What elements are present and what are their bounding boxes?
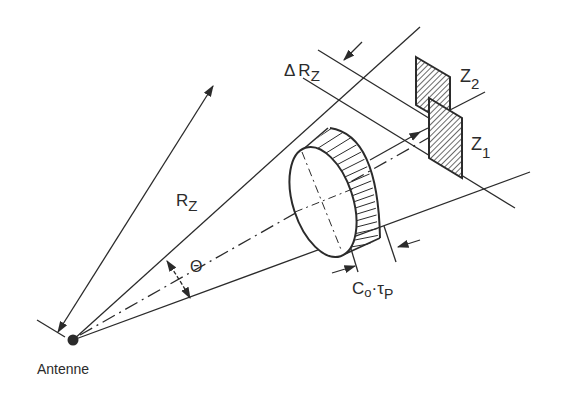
target-z1-label: Z1 bbox=[471, 134, 490, 161]
target-connector bbox=[450, 92, 485, 110]
radar-range-cell-diagram: Antenne RZ ΔRZ Θ Co·τP Z2 Z1 bbox=[0, 0, 565, 393]
pulse-length-label: Co·τP bbox=[352, 279, 393, 302]
beam-angle-arc bbox=[167, 261, 190, 298]
delta-range-label: ΔRZ bbox=[284, 61, 320, 84]
range-label: RZ bbox=[176, 191, 197, 214]
delta-range-arrow bbox=[344, 42, 362, 60]
target-z2-label: Z2 bbox=[460, 66, 479, 92]
antenna-label: Antenne bbox=[37, 361, 89, 377]
pulse-arrow-right bbox=[398, 240, 420, 247]
target-z1 bbox=[429, 98, 462, 178]
antenna-dot bbox=[68, 335, 79, 346]
beam-centerline bbox=[80, 120, 460, 335]
pulse-arrow-to-target bbox=[370, 132, 420, 160]
pulse-tick-right bbox=[384, 226, 396, 262]
beam-angle-label: Θ bbox=[190, 258, 202, 275]
range-cell-cylinder bbox=[277, 126, 380, 265]
pulse-arrow-left bbox=[332, 266, 355, 273]
